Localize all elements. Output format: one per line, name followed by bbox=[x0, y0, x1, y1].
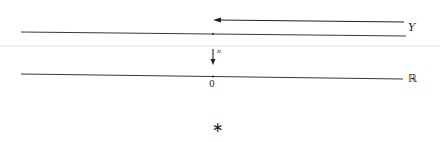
top-line-origin-dot bbox=[212, 33, 214, 35]
top-arrow bbox=[213, 18, 404, 23]
bottom-line-origin-dot bbox=[212, 76, 214, 78]
label-r: ℝ bbox=[408, 73, 417, 84]
label-y: Y bbox=[408, 22, 415, 33]
label-pi: π bbox=[217, 48, 221, 54]
projection-arrow bbox=[211, 49, 216, 65]
label-origin-zero: 0 bbox=[209, 80, 215, 89]
asterisk-marker: ∗ bbox=[212, 120, 224, 134]
